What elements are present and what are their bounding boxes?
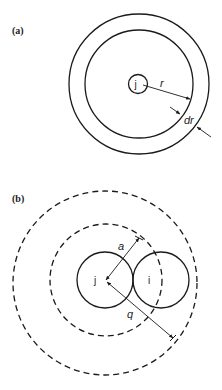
panel-b-label: (b): [12, 193, 24, 205]
particle-i-circle: [133, 252, 189, 308]
cutoff-radius-q-circle: [13, 191, 197, 375]
outer-shell-circle: [69, 14, 209, 154]
radius-q-label: q: [127, 308, 134, 320]
particle-j-label: j: [93, 275, 96, 286]
panel-a-label: (a): [12, 25, 24, 37]
particle-j-circle: [77, 252, 133, 308]
shell-dr-label: dr: [184, 114, 195, 126]
panel-a: (a) j r dr: [12, 14, 211, 154]
inner-shell-circle: [85, 30, 193, 138]
panel-b: (b) j i a q: [12, 191, 197, 375]
particle-i-label: i: [148, 275, 150, 286]
dr-inner-arrow: [170, 107, 180, 114]
radius-r-label: r: [160, 77, 165, 89]
radius-q-arrow: [107, 282, 173, 338]
particle-j-label: j: [134, 79, 137, 90]
radius-r-arrow: [143, 85, 190, 99]
particle-j-circle: [129, 75, 148, 94]
dr-outer-arrow: [197, 127, 211, 137]
radius-a-label: a: [118, 240, 124, 252]
diagram-figure: (a) j r dr (b) j i a q: [0, 0, 222, 390]
